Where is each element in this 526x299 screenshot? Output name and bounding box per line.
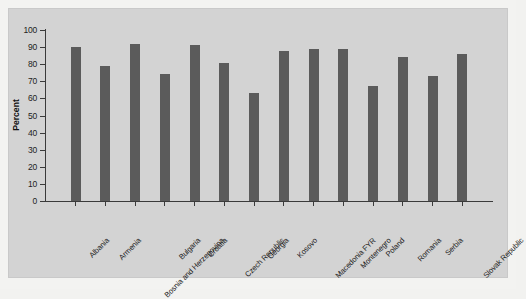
x-axis-tick (75, 201, 76, 206)
bar (190, 45, 200, 201)
y-axis-tick (40, 47, 46, 48)
x-axis-tick (432, 201, 433, 206)
bar (249, 93, 259, 201)
x-axis-tick (373, 201, 374, 206)
bar (457, 54, 467, 201)
bar (219, 63, 229, 202)
bar (279, 51, 289, 201)
y-axis-tick-label: 30 (28, 145, 37, 155)
y-axis-tick (40, 167, 46, 168)
x-axis-tick (402, 201, 403, 206)
bar (71, 47, 81, 201)
y-axis-tick-label: 90 (28, 42, 37, 52)
y-axis-tick (40, 64, 46, 65)
bar (309, 49, 319, 201)
x-axis-tick (254, 201, 255, 206)
y-axis-tick-label: 20 (28, 162, 37, 172)
y-axis-tick (40, 201, 46, 202)
x-axis-line (45, 201, 493, 202)
y-axis-title: Percent (11, 99, 21, 131)
bar (428, 76, 438, 201)
bar (160, 74, 170, 201)
y-axis-tick (40, 150, 46, 151)
bar (398, 57, 408, 201)
x-axis-tick (313, 201, 314, 206)
y-axis-tick-label: 70 (28, 76, 37, 86)
y-axis-tick-label: 80 (28, 59, 37, 69)
x-axis-tick (224, 201, 225, 206)
bar (338, 49, 348, 201)
y-axis-tick (40, 184, 46, 185)
x-axis-tick (105, 201, 106, 206)
bar (368, 86, 378, 201)
x-axis-tick (194, 201, 195, 206)
y-axis-tick-label: 100 (23, 25, 37, 35)
y-axis-tick (40, 81, 46, 82)
y-axis-tick (40, 133, 46, 134)
y-axis-tick-label: 40 (28, 128, 37, 138)
x-axis-tick (283, 201, 284, 206)
bar (130, 44, 140, 201)
x-axis-tick (462, 201, 463, 206)
plot-area: 0102030405060708090100 AlbaniaArmeniaBos… (46, 30, 492, 201)
y-axis-tick-label: 0 (32, 196, 37, 206)
x-axis-tick (343, 201, 344, 206)
y-axis-tick (40, 30, 46, 31)
y-axis-tick-label: 10 (28, 179, 37, 189)
y-axis-tick (40, 98, 46, 99)
x-axis-tick (135, 201, 136, 206)
y-axis-tick (40, 116, 46, 117)
bar (100, 66, 110, 201)
y-axis-tick-label: 50 (28, 111, 37, 121)
y-axis-tick-label: 60 (28, 93, 37, 103)
x-axis-tick (164, 201, 165, 206)
